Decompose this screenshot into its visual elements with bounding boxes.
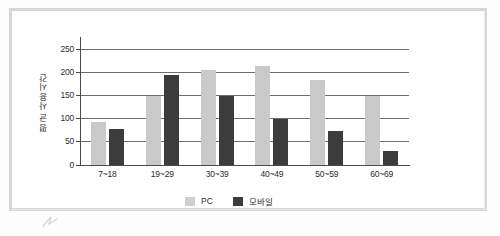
- legend-item-pc[interactable]: PC: [185, 196, 213, 206]
- y-label-100: 100: [48, 113, 74, 123]
- legend-label-mobile: 모바일: [249, 195, 273, 207]
- chart-page: 평균 사용시간 250 200 150 100 50 0: [0, 0, 500, 236]
- bar-pc-60~69: [365, 96, 380, 165]
- bars-layer: [80, 37, 409, 165]
- x-label-19~29: 19~29: [132, 169, 192, 179]
- x-label-60~69: 60~69: [352, 169, 412, 179]
- bar-pc-30~39: [201, 70, 216, 165]
- x-label-7~18: 7~18: [77, 169, 137, 179]
- bar-pc-7~18: [91, 122, 106, 165]
- chart-legend: PC 모바일: [185, 194, 325, 208]
- bar-chart: 평균 사용시간 250 200 150 100 50 0: [0, 0, 500, 236]
- bar-pc-50~59: [310, 80, 325, 165]
- legend-swatch-pc-icon: [185, 197, 195, 206]
- y-label-50: 50: [48, 136, 74, 146]
- legend-swatch-mobile-icon: [233, 197, 243, 206]
- x-label-30~39: 30~39: [187, 169, 247, 179]
- bar-mobile-19~29: [164, 75, 179, 165]
- x-label-50~59: 50~59: [297, 169, 357, 179]
- y-label-250: 250: [48, 44, 74, 54]
- y-label-0: 0: [48, 160, 74, 170]
- bar-mobile-40~49: [273, 119, 288, 165]
- bar-pc-40~49: [255, 66, 270, 165]
- bar-mobile-50~59: [328, 131, 343, 165]
- bar-mobile-60~69: [383, 151, 398, 165]
- y-label-200: 200: [48, 67, 74, 77]
- x-axis-line: [80, 165, 410, 166]
- legend-label-pc: PC: [201, 196, 213, 206]
- y-label-150: 150: [48, 90, 74, 100]
- bar-mobile-7~18: [109, 129, 124, 165]
- legend-item-mobile[interactable]: 모바일: [233, 195, 273, 207]
- bar-mobile-30~39: [219, 96, 234, 165]
- x-label-40~49: 40~49: [242, 169, 302, 179]
- bar-pc-19~29: [146, 96, 161, 165]
